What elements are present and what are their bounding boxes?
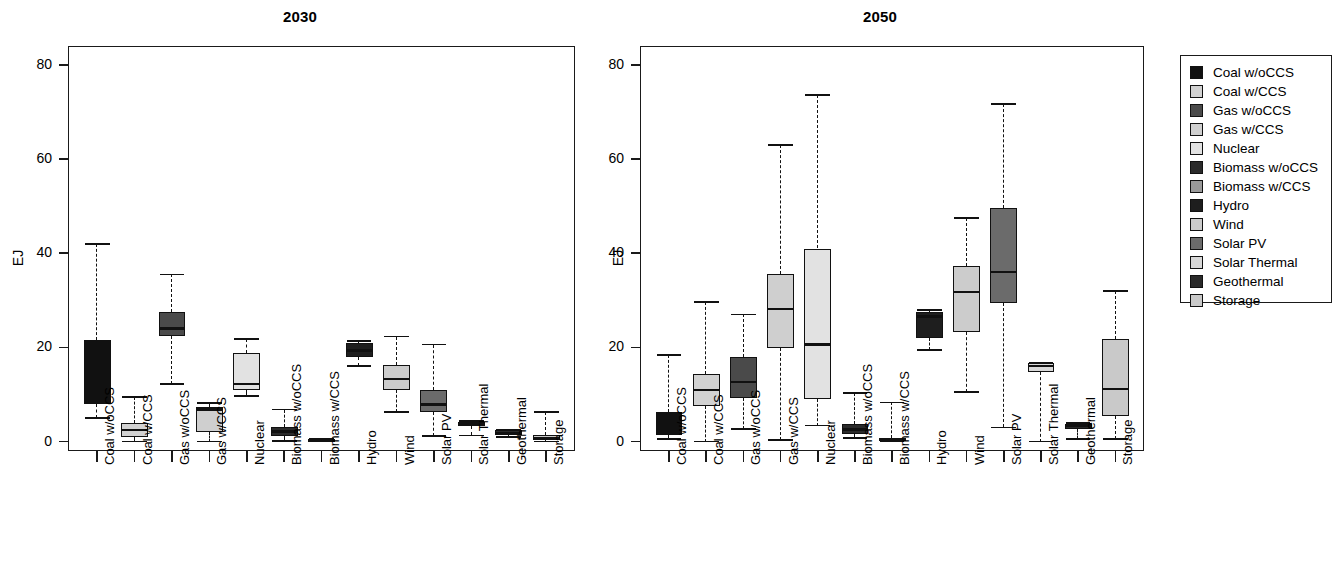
legend-item-label: Coal w/oCCS bbox=[1213, 66, 1294, 80]
x-axis-tick-label: Nuclear bbox=[823, 420, 838, 465]
x-axis-tick bbox=[1115, 451, 1117, 462]
cap-upper bbox=[768, 144, 793, 146]
y-axis-tick bbox=[631, 158, 640, 160]
whisker-lower bbox=[1115, 416, 1116, 439]
median-line bbox=[953, 291, 980, 293]
whisker-upper bbox=[891, 402, 892, 437]
y-axis-tick-label: 80 bbox=[582, 56, 624, 72]
cap-upper bbox=[160, 274, 185, 276]
cap-lower bbox=[234, 395, 259, 397]
cap-upper bbox=[917, 309, 942, 311]
cap-upper bbox=[534, 411, 559, 413]
x-axis-tick-label: Gas w/CCS bbox=[214, 397, 229, 465]
legend-item-geothermal[interactable]: Geothermal bbox=[1190, 272, 1331, 291]
x-axis-tick-label: Storage bbox=[1120, 419, 1135, 465]
y-axis-tick bbox=[631, 441, 640, 443]
legend-item-label: Wind bbox=[1213, 218, 1244, 232]
legend-item-gas-w-occs[interactable]: Gas w/oCCS bbox=[1190, 101, 1331, 120]
y-axis-tick bbox=[59, 252, 68, 254]
whisker-lower bbox=[743, 398, 744, 429]
panel-2030-plot-area bbox=[68, 46, 575, 451]
x-axis-tick-label: Geothermal bbox=[1083, 397, 1098, 465]
whisker-lower bbox=[96, 404, 97, 418]
y-axis-tick-label: 0 bbox=[582, 433, 624, 449]
x-axis-tick bbox=[780, 451, 782, 462]
legend-swatch-icon bbox=[1190, 218, 1203, 231]
y-axis-tick bbox=[59, 64, 68, 66]
x-axis-tick-label: Solar PV bbox=[439, 414, 454, 465]
median-line bbox=[383, 378, 410, 380]
legend-item-hydro[interactable]: Hydro bbox=[1190, 196, 1331, 215]
whisker-lower bbox=[817, 399, 818, 425]
legend-swatch-icon bbox=[1190, 294, 1203, 307]
median-line bbox=[693, 389, 720, 391]
whisker-upper bbox=[171, 274, 172, 312]
legend-item-nuclear[interactable]: Nuclear bbox=[1190, 139, 1331, 158]
y-axis-tick-label: 80 bbox=[10, 56, 52, 72]
x-axis-tick-label: Geothermal bbox=[514, 397, 529, 465]
legend-item-solar-pv[interactable]: Solar PV bbox=[1190, 234, 1331, 253]
x-axis-tick bbox=[1077, 451, 1079, 462]
x-axis-tick bbox=[358, 451, 360, 462]
x-axis-tick bbox=[743, 451, 745, 462]
legend-item-label: Gas w/CCS bbox=[1213, 123, 1284, 137]
x-axis-tick-label: Hydro bbox=[364, 430, 379, 465]
box-iqr bbox=[159, 312, 186, 336]
cap-lower bbox=[384, 411, 409, 413]
legend-item-biomass-w-ccs[interactable]: Biomass w/CCS bbox=[1190, 177, 1331, 196]
x-axis-tick bbox=[854, 451, 856, 462]
x-axis-tick bbox=[508, 451, 510, 462]
whisker-lower bbox=[433, 412, 434, 436]
median-line bbox=[1028, 365, 1055, 367]
box-iqr bbox=[767, 274, 794, 348]
legend-item-wind[interactable]: Wind bbox=[1190, 215, 1331, 234]
legend-item-solar-thermal[interactable]: Solar Thermal bbox=[1190, 253, 1331, 272]
median-line bbox=[159, 327, 186, 329]
cap-upper bbox=[991, 103, 1016, 105]
legend-swatch-icon bbox=[1190, 142, 1203, 155]
whisker-lower bbox=[396, 390, 397, 413]
x-axis-tick bbox=[966, 451, 968, 462]
y-axis-tick-label: 0 bbox=[10, 433, 52, 449]
box-iqr bbox=[420, 390, 447, 412]
legend-item-label: Hydro bbox=[1213, 199, 1249, 213]
legend-item-label: Storage bbox=[1213, 294, 1260, 308]
cap-upper bbox=[234, 338, 259, 340]
y-axis-tick-label: 40 bbox=[10, 244, 52, 260]
legend-item-label: Solar Thermal bbox=[1213, 256, 1298, 270]
x-axis-tick bbox=[433, 451, 435, 462]
boxplot-figure: 2030 EJ 020406080Coal w/oCCSCoal w/CCSGa… bbox=[0, 0, 1335, 585]
whisker-upper bbox=[1115, 291, 1116, 339]
whisker-upper bbox=[817, 95, 818, 249]
legend-item-coal-w-ccs[interactable]: Coal w/CCS bbox=[1190, 82, 1331, 101]
legend-item-gas-w-ccs[interactable]: Gas w/CCS bbox=[1190, 120, 1331, 139]
whisker-upper bbox=[433, 345, 434, 390]
panel-2050: 2050 EJ 020406080Coal w/oCCSCoal w/CCSGa… bbox=[600, 0, 1160, 585]
x-axis-tick-label: Nuclear bbox=[252, 420, 267, 465]
x-axis-tick bbox=[283, 451, 285, 462]
legend-swatch-icon bbox=[1190, 199, 1203, 212]
legend-item-biomass-w-occs[interactable]: Biomass w/oCCS bbox=[1190, 158, 1331, 177]
median-line bbox=[990, 271, 1017, 273]
legend-item-coal-w-occs[interactable]: Coal w/oCCS bbox=[1190, 63, 1331, 82]
panel-2030-title: 2030 bbox=[0, 8, 600, 25]
legend-swatch-icon bbox=[1190, 104, 1203, 117]
legend-item-label: Biomass w/CCS bbox=[1213, 180, 1311, 194]
median-line bbox=[346, 349, 373, 351]
legend-item-label: Nuclear bbox=[1213, 142, 1260, 156]
legend-item-storage[interactable]: Storage bbox=[1190, 291, 1331, 310]
y-axis-tick bbox=[631, 64, 640, 66]
x-axis-tick-label: Gas w/CCS bbox=[786, 397, 801, 465]
whisker-lower bbox=[1003, 303, 1004, 428]
x-axis-tick bbox=[929, 451, 931, 462]
x-axis-tick bbox=[171, 451, 173, 462]
cap-upper bbox=[657, 354, 682, 356]
x-axis-tick bbox=[668, 451, 670, 462]
x-axis-tick bbox=[471, 451, 473, 462]
x-axis-tick-label: Wind bbox=[402, 435, 417, 465]
y-axis-tick bbox=[59, 441, 68, 443]
x-axis-tick-label: Biomass w/CCS bbox=[897, 371, 912, 465]
x-axis-tick-label: Coal w/CCS bbox=[711, 394, 726, 465]
x-axis-tick bbox=[545, 451, 547, 462]
x-axis-tick bbox=[1003, 451, 1005, 462]
